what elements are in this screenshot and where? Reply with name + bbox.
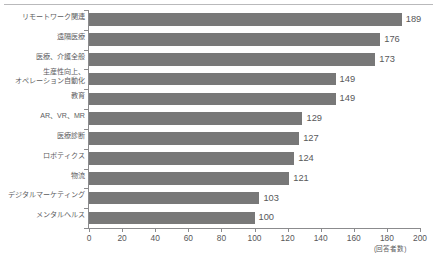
x-axis-tick bbox=[387, 228, 388, 232]
bar-value-label: 129 bbox=[306, 112, 322, 125]
bar bbox=[89, 132, 299, 145]
y-axis-tick bbox=[84, 208, 88, 209]
category-label: メンタルヘルス bbox=[0, 211, 85, 220]
bar bbox=[89, 192, 259, 205]
y-axis-tick bbox=[84, 30, 88, 31]
bar-value-label: 149 bbox=[340, 92, 356, 105]
y-axis-tick bbox=[84, 109, 88, 110]
bar-chart: リモートワーク関連189遠隔医療176医療、介護全般173生産性向上、 オペレー… bbox=[0, 0, 437, 258]
x-axis-tick bbox=[188, 228, 189, 232]
x-axis-tick-label: 200 bbox=[400, 233, 437, 243]
y-axis-tick bbox=[84, 69, 88, 70]
bar bbox=[89, 93, 336, 106]
y-axis-tick bbox=[84, 10, 88, 11]
bar-row: 医療、介護全般173 bbox=[0, 50, 437, 70]
category-label: 医療、介護全般 bbox=[0, 53, 85, 62]
bar bbox=[89, 152, 294, 165]
y-axis-tick bbox=[84, 149, 88, 150]
bar-row: 遠隔医療176 bbox=[0, 30, 437, 50]
x-axis-tick bbox=[288, 228, 289, 232]
x-axis-tick bbox=[255, 228, 256, 232]
category-label: 教育 bbox=[0, 92, 85, 101]
bar bbox=[89, 13, 402, 26]
category-label: ロボティクス bbox=[0, 152, 85, 161]
y-axis-tick bbox=[84, 169, 88, 170]
bar-row: デジタルマーケティング103 bbox=[0, 188, 437, 208]
bar bbox=[89, 53, 375, 66]
x-axis-tick bbox=[122, 228, 123, 232]
category-label: デジタルマーケティング bbox=[0, 191, 85, 200]
bar-row: 生産性向上、 オペレーション自動化149 bbox=[0, 69, 437, 89]
bar-row: ロボティクス124 bbox=[0, 149, 437, 169]
bar bbox=[89, 212, 255, 225]
category-label: 生産性向上、 オペレーション自動化 bbox=[0, 68, 85, 86]
x-axis-tick bbox=[420, 228, 421, 232]
bar-row: 教育149 bbox=[0, 89, 437, 109]
bar-row: AR、VR、MR129 bbox=[0, 109, 437, 129]
category-label: 医療診断 bbox=[0, 132, 85, 141]
x-axis-unit-note: (回答者数) bbox=[374, 243, 406, 253]
bar-value-label: 121 bbox=[293, 172, 309, 185]
bar-value-label: 124 bbox=[298, 152, 314, 165]
y-axis-tick bbox=[84, 89, 88, 90]
bar-value-label: 176 bbox=[384, 33, 400, 46]
y-axis-tick bbox=[84, 129, 88, 130]
y-axis-tick bbox=[84, 188, 88, 189]
bar-row: リモートワーク関連189 bbox=[0, 10, 437, 30]
y-axis-tick bbox=[84, 50, 88, 51]
bar-value-label: 127 bbox=[303, 132, 319, 145]
bar-row: 医療診断127 bbox=[0, 129, 437, 149]
bar-value-label: 149 bbox=[340, 73, 356, 86]
bar bbox=[89, 172, 289, 185]
category-label: 遠隔医療 bbox=[0, 33, 85, 42]
bar bbox=[89, 73, 336, 86]
bar-value-label: 173 bbox=[379, 53, 395, 66]
bar-row: メンタルヘルス100 bbox=[0, 208, 437, 228]
y-axis-tick bbox=[84, 228, 88, 229]
x-axis-tick bbox=[354, 228, 355, 232]
bar bbox=[89, 112, 302, 125]
bar bbox=[89, 33, 380, 46]
plot-area: リモートワーク関連189遠隔医療176医療、介護全般173生産性向上、 オペレー… bbox=[0, 0, 437, 258]
bar-value-label: 100 bbox=[259, 211, 275, 224]
bar-value-label: 103 bbox=[263, 192, 279, 205]
x-axis-tick bbox=[155, 228, 156, 232]
category-label: AR、VR、MR bbox=[0, 112, 85, 121]
x-axis-tick bbox=[221, 228, 222, 232]
x-axis-tick bbox=[321, 228, 322, 232]
bar-row: 物流121 bbox=[0, 169, 437, 189]
category-label: 物流 bbox=[0, 172, 85, 181]
bar-value-label: 189 bbox=[406, 13, 422, 26]
category-label: リモートワーク関連 bbox=[0, 13, 85, 22]
x-axis-tick bbox=[89, 228, 90, 232]
